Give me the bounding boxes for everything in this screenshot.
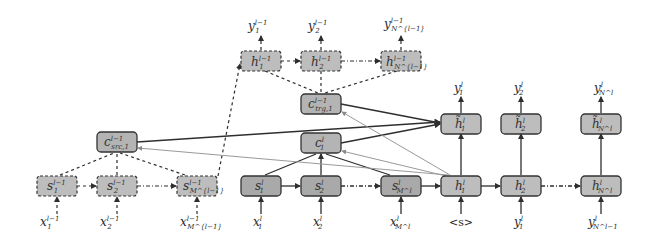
svg-text:yl−1N^{l−1}: yl−1N^{l−1} xyxy=(383,17,425,33)
nodes xyxy=(37,51,621,196)
architecture-diagram: hl−11 hl−12 hl−1N^{l−1} yl−11 yl−12 yl−1… xyxy=(0,0,658,251)
svg-text:yl1: yl1 xyxy=(453,81,464,97)
svg-text:cl1: cl1 xyxy=(315,136,324,152)
edge-prev-s1-to-csrc xyxy=(60,153,114,175)
svg-text:hl2: hl2 xyxy=(515,179,526,195)
svg-text:h̃l1: h̃l1 xyxy=(455,115,465,133)
svg-text:hl1: hl1 xyxy=(455,179,465,195)
edge-sM-to-c1 xyxy=(326,154,390,175)
svg-text:xl−12: xl−12 xyxy=(100,215,119,231)
edge-prev-sM-to-csrc xyxy=(120,153,185,175)
svg-text:xl−11: xl−11 xyxy=(40,215,59,231)
svg-text:<s>: <s> xyxy=(449,216,473,229)
svg-text:xl−1M^{l−1}: xl−1M^{l−1} xyxy=(180,215,222,231)
edge-prev-h1-to-ctrg xyxy=(265,71,318,93)
edge-prev-sM-to-prev-h1 xyxy=(218,64,240,176)
attn-h1-to-csrc xyxy=(138,148,448,175)
svg-text:ylN^l: ylN^l xyxy=(593,81,613,97)
svg-text:yl−11: yl−11 xyxy=(247,19,267,35)
edge-s1-to-c1 xyxy=(265,154,316,175)
svg-text:sl2: sl2 xyxy=(315,179,324,195)
svg-text:xl2: xl2 xyxy=(313,215,323,231)
svg-text:yl−12: yl−12 xyxy=(307,19,327,35)
svg-text:xlM^l: xlM^l xyxy=(390,215,410,231)
svg-text:yl2: yl2 xyxy=(513,81,524,97)
svg-text:sl1: sl1 xyxy=(255,179,264,195)
svg-text:yl1: yl1 xyxy=(513,215,524,231)
edge-csrc-to-ht1 xyxy=(137,122,440,142)
svg-text:xl1: xl1 xyxy=(253,215,263,231)
edge-prev-hN-to-ctrg xyxy=(325,71,397,93)
svg-text:h̃l2: h̃l2 xyxy=(515,115,526,133)
svg-text:ylN^l−1: ylN^l−1 xyxy=(587,215,618,231)
